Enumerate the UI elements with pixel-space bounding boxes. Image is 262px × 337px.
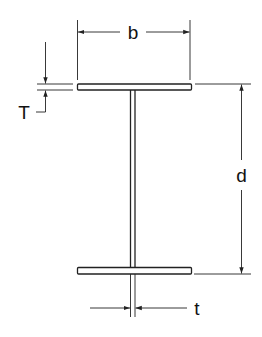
i-beam-section [78,84,192,274]
label-T: T [18,102,30,123]
top-flange [78,84,192,90]
bottom-flange [78,268,192,275]
i-beam-diagram: b T d t [0,0,262,337]
label-d: d [236,165,247,186]
T-dimension [36,42,73,112]
label-t: t [194,298,200,319]
label-b: b [128,22,139,43]
t-dimension [90,274,187,317]
